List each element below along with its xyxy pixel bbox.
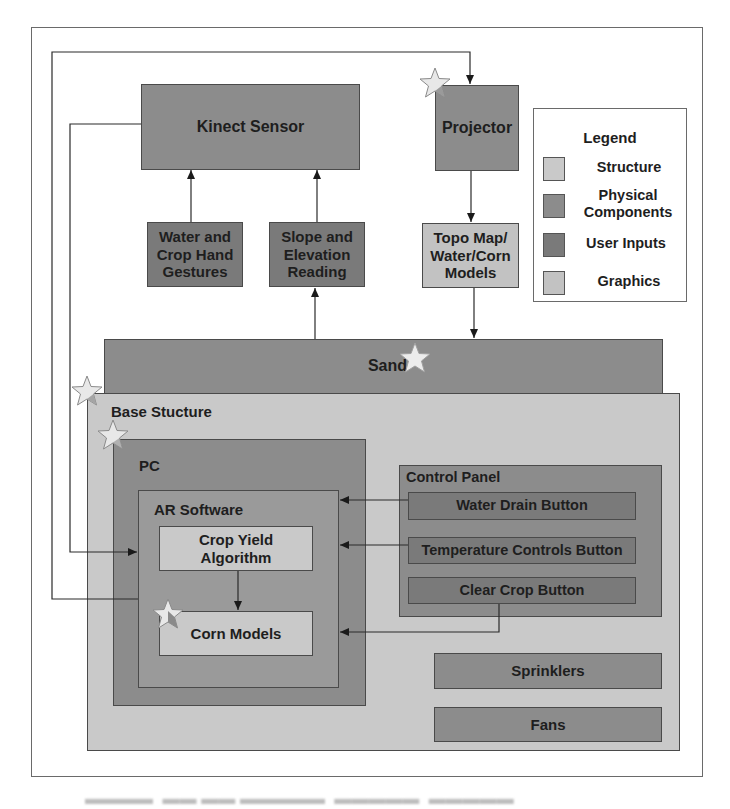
water-drain-button: Water Drain Button bbox=[408, 492, 636, 520]
star-icon bbox=[70, 374, 104, 408]
hand-gestures-box: Water and Crop Hand Gestures bbox=[147, 222, 243, 287]
temperature-controls-label: Temperature Controls Button bbox=[421, 542, 622, 559]
pc-label: PC bbox=[139, 457, 160, 474]
slope-elevation-label: Slope and Elevation Reading bbox=[276, 228, 358, 281]
fans-label: Fans bbox=[530, 716, 565, 734]
water-drain-label: Water Drain Button bbox=[456, 497, 588, 514]
temperature-controls-button: Temperature Controls Button bbox=[408, 537, 636, 564]
legend-title: Legend bbox=[534, 129, 686, 146]
legend-swatch-user-inputs bbox=[543, 233, 565, 257]
slope-elevation-box: Slope and Elevation Reading bbox=[269, 222, 365, 287]
sand-box: Sand bbox=[104, 339, 663, 394]
topo-map-box: Topo Map/ Water/Corn Models bbox=[422, 223, 519, 288]
star-icon bbox=[151, 597, 185, 631]
legend-swatch-physical bbox=[543, 194, 565, 218]
crop-yield-box: Crop Yield Algorithm bbox=[159, 526, 313, 571]
projector-label: Projector bbox=[442, 119, 512, 138]
kinect-sensor-label: Kinect Sensor bbox=[197, 118, 305, 137]
legend-label-graphics: Graphics bbox=[574, 273, 684, 290]
control-panel-label: Control Panel bbox=[406, 469, 500, 485]
corn-models-label: Corn Models bbox=[191, 625, 282, 643]
legend-label-structure: Structure bbox=[574, 159, 684, 176]
legend-swatch-graphics bbox=[543, 271, 565, 295]
legend-label-physical: Physical Components bbox=[568, 187, 688, 222]
hand-gestures-label: Water and Crop Hand Gestures bbox=[152, 228, 238, 281]
legend: Legend Structure Physical Components Use… bbox=[533, 108, 687, 302]
topo-map-label: Topo Map/ Water/Corn Models bbox=[426, 229, 515, 282]
star-icon bbox=[96, 418, 130, 452]
clear-crop-label: Clear Crop Button bbox=[460, 582, 585, 599]
star-icon bbox=[418, 66, 452, 100]
legend-swatch-structure bbox=[543, 157, 565, 181]
ar-software-box: AR Software bbox=[138, 490, 339, 688]
sprinklers-box: Sprinklers bbox=[434, 653, 662, 689]
figure-caption-cropped: ▬▬▬▬ ▬▬ ▬▬ ▬▬▬▬▬ ▬▬▬▬▬ ▬▬▬▬▬ bbox=[85, 789, 514, 809]
star-icon bbox=[398, 341, 432, 375]
crop-yield-label: Crop Yield Algorithm bbox=[181, 531, 291, 566]
legend-label-user-inputs: User Inputs bbox=[570, 235, 682, 252]
kinect-sensor-box: Kinect Sensor bbox=[141, 84, 360, 170]
ar-software-label: AR Software bbox=[154, 501, 243, 518]
sprinklers-label: Sprinklers bbox=[511, 662, 584, 680]
fans-box: Fans bbox=[434, 707, 662, 742]
clear-crop-button: Clear Crop Button bbox=[408, 577, 636, 604]
